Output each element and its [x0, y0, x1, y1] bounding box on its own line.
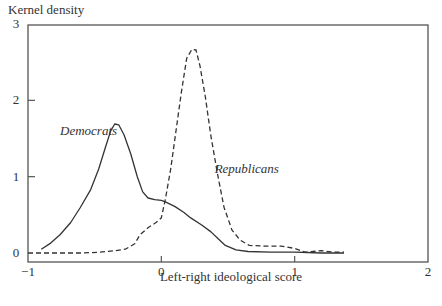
y-tick-label: 2	[13, 92, 20, 107]
series-labels: DemocratsRepublicans	[59, 123, 279, 176]
x-axis-label: Left-right ideological score	[0, 269, 442, 285]
y-tick-label: 3	[13, 16, 20, 31]
democrats-label: Democrats	[59, 123, 117, 138]
republicans-label: Republicans	[214, 161, 279, 176]
republicans-line	[28, 49, 344, 253]
series-lines	[28, 49, 344, 253]
axis-ticks: −10120123	[13, 16, 432, 279]
plot-frame	[28, 25, 428, 262]
y-tick-label: 1	[13, 169, 20, 184]
y-tick-label: 0	[13, 245, 20, 260]
democrats-line	[41, 124, 344, 253]
density-chart: −10120123 DemocratsRepublicans	[0, 0, 442, 306]
